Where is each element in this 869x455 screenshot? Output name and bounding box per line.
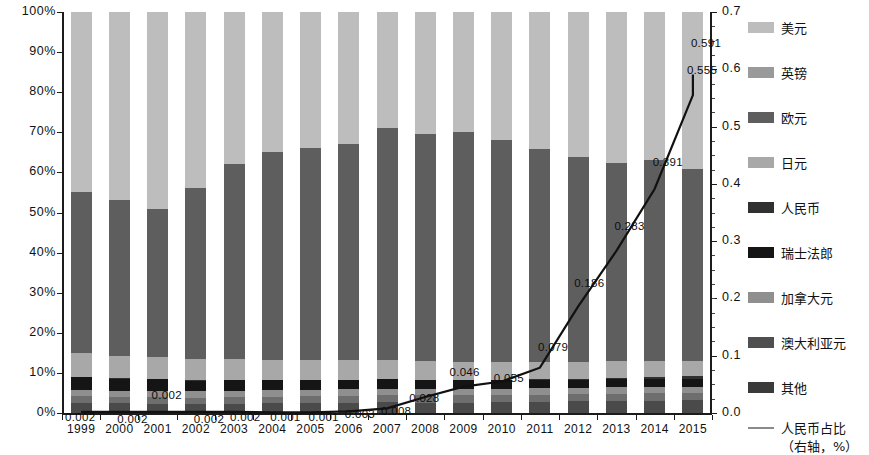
legend-item[interactable]: 人民币	[748, 200, 820, 214]
y-axis-left-label: 30%	[4, 285, 56, 299]
y-axis-right-minor-tick	[712, 84, 715, 85]
y-axis-left-label: 10%	[4, 365, 56, 379]
y-axis-right-minor-tick	[712, 384, 715, 385]
data-point-label: 0.008	[381, 405, 411, 417]
y-axis-right-minor-tick	[712, 313, 715, 314]
y-axis-right-minor-tick	[712, 284, 715, 285]
x-axis-tick	[483, 415, 484, 420]
y-axis-right-minor-tick	[712, 55, 715, 56]
y-axis-right-minor-tick	[712, 327, 715, 328]
legend-swatch-icon	[748, 337, 774, 348]
x-axis-tick	[444, 415, 445, 420]
x-axis-tick	[636, 415, 637, 420]
y-axis-right-minor-tick	[712, 298, 715, 299]
y-axis-right-minor-tick	[712, 370, 715, 371]
y-axis-right-tick	[712, 241, 717, 242]
legend-label: 日元	[781, 153, 807, 172]
x-axis-tick	[62, 415, 63, 420]
y-axis-left-label: 100%	[4, 4, 56, 18]
data-point-label: 0.055	[494, 372, 524, 384]
y-axis-right-minor-tick	[712, 341, 715, 342]
chart-legend: 美元英镑欧元日元人民币瑞士法郎加拿大元澳大利亚元其他 人民币占比 （右轴，%）	[748, 12, 869, 442]
data-point-label: 0.555	[687, 64, 717, 76]
x-axis-tick	[521, 415, 522, 420]
legend-label: 瑞士法郎	[781, 243, 833, 262]
y-axis-left-label: 50%	[4, 205, 56, 219]
legend-swatch-icon	[748, 157, 774, 168]
x-axis-tick	[559, 415, 560, 420]
legend-label: 人民币	[781, 198, 820, 217]
y-axis-left-label: 20%	[4, 325, 56, 339]
y-axis-right-minor-tick	[712, 255, 715, 256]
data-point-label: 0.591	[691, 37, 721, 49]
legend-label: 其他	[781, 378, 807, 397]
y-axis-right-minor-tick	[712, 399, 715, 400]
x-axis-tick	[177, 415, 178, 420]
legend-label: 加拿大元	[781, 288, 833, 307]
y-axis-right-minor-tick	[712, 155, 715, 156]
y-axis-left-label: 90%	[4, 44, 56, 58]
y-axis-left-label: 40%	[4, 245, 56, 259]
y-axis-right-minor-tick	[712, 141, 715, 142]
legend-item[interactable]: 加拿大元	[748, 290, 833, 304]
legend-label: 欧元	[781, 108, 807, 127]
y-axis-right-minor-tick	[712, 98, 715, 99]
legend-item[interactable]: 其他	[748, 380, 807, 394]
legend-line-icon	[748, 422, 774, 433]
y-axis-right-minor-tick	[712, 198, 715, 199]
y-axis-left-label: 70%	[4, 124, 56, 138]
y-axis-right-minor-tick	[712, 26, 715, 27]
line-series-layer	[62, 12, 712, 415]
y-axis-right-minor-tick	[712, 227, 715, 228]
legend-swatch-icon	[748, 67, 774, 78]
legend-swatch-icon	[748, 292, 774, 303]
data-point-label: 0.283	[614, 220, 644, 232]
legend-label: 英镑	[781, 63, 807, 82]
data-point-label: 0.028	[409, 392, 439, 404]
x-axis-tick	[597, 415, 598, 420]
legend-swatch-icon	[748, 247, 774, 258]
legend-item[interactable]: 欧元	[748, 110, 807, 124]
legend-swatch-icon	[748, 382, 774, 393]
y-axis-left-label: 60%	[4, 164, 56, 178]
legend-item[interactable]: 澳大利亚元	[748, 335, 846, 349]
rmb-share-line	[81, 74, 693, 412]
data-point-label: 0.391	[653, 156, 683, 168]
y-axis-right-tick	[712, 356, 717, 357]
y-axis-right-minor-tick	[712, 270, 715, 271]
x-axis-label: 2015	[671, 422, 715, 436]
data-point-label: 0.046	[449, 366, 479, 378]
y-axis-right-tick	[712, 127, 717, 128]
legend-sublabel: （右轴，%）	[781, 436, 858, 455]
legend-item[interactable]: 英镑	[748, 65, 807, 79]
data-point-label: 0.186	[574, 277, 604, 289]
legend-label: 澳大利亚元	[781, 333, 846, 352]
y-axis-right-tick	[712, 12, 717, 13]
legend-item[interactable]: 日元	[748, 155, 807, 169]
data-point-label: 0.079	[538, 341, 568, 353]
y-axis-left-label: 0%	[4, 405, 56, 419]
y-axis-right-minor-tick	[712, 170, 715, 171]
y-axis-left-label: 80%	[4, 84, 56, 98]
y-axis-right-minor-tick	[712, 213, 715, 214]
y-axis-right-minor-tick	[712, 112, 715, 113]
legend-label: 人民币占比	[781, 418, 846, 437]
x-axis-tick	[674, 415, 675, 420]
legend-swatch-icon	[748, 22, 774, 33]
legend-label: 美元	[781, 18, 807, 37]
plot-area: 0%10%20%30%40%50%60%70%80%90%100% 0.00.1…	[62, 12, 712, 415]
legend-swatch-icon	[748, 202, 774, 213]
x-axis-tick	[712, 415, 713, 420]
x-axis-tick	[100, 415, 101, 420]
legend-item[interactable]: 瑞士法郎	[748, 245, 833, 259]
legend-item-rmb-share[interactable]: 人民币占比	[748, 420, 846, 434]
y-axis-right-tick	[712, 413, 717, 414]
legend-swatch-icon	[748, 112, 774, 123]
y-axis-right-tick	[712, 184, 717, 185]
data-point-label: 0.002	[152, 389, 182, 401]
legend-item[interactable]: 美元	[748, 20, 807, 34]
data-point-label: 0.003	[345, 408, 375, 420]
